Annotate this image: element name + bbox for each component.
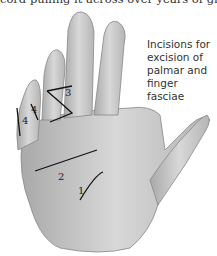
label-line: finger fasciae (147, 77, 217, 103)
incision-number-4b: 4 (31, 104, 37, 115)
label-line: Incisions for (147, 38, 217, 51)
label-line: excision of (147, 51, 217, 64)
incision-number-3: 3 (65, 87, 71, 98)
incision-number-2: 2 (58, 171, 64, 182)
incision-number-4a: 4 (22, 115, 28, 126)
figure-label: Incisions for excision of palmar and fin… (147, 38, 217, 103)
incision-number-1: 1 (78, 185, 84, 196)
label-line: palmar and (147, 64, 217, 77)
